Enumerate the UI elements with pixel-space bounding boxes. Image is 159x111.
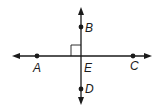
right-angle-marker	[71, 45, 81, 56]
point-b	[79, 25, 84, 30]
perpendicular-lines-diagram: A B C D E	[0, 0, 159, 111]
arrowhead-right-icon	[144, 53, 152, 59]
arrowhead-down-icon	[78, 97, 84, 105]
label-c: C	[130, 59, 139, 73]
label-e: E	[84, 61, 93, 75]
label-a: A	[32, 61, 41, 75]
label-b: B	[85, 21, 93, 35]
arrowhead-up-icon	[78, 7, 84, 15]
point-c	[131, 54, 136, 59]
arrowhead-left-icon	[12, 53, 20, 59]
point-d	[79, 87, 84, 92]
point-a	[35, 54, 40, 59]
label-d: D	[85, 82, 94, 96]
